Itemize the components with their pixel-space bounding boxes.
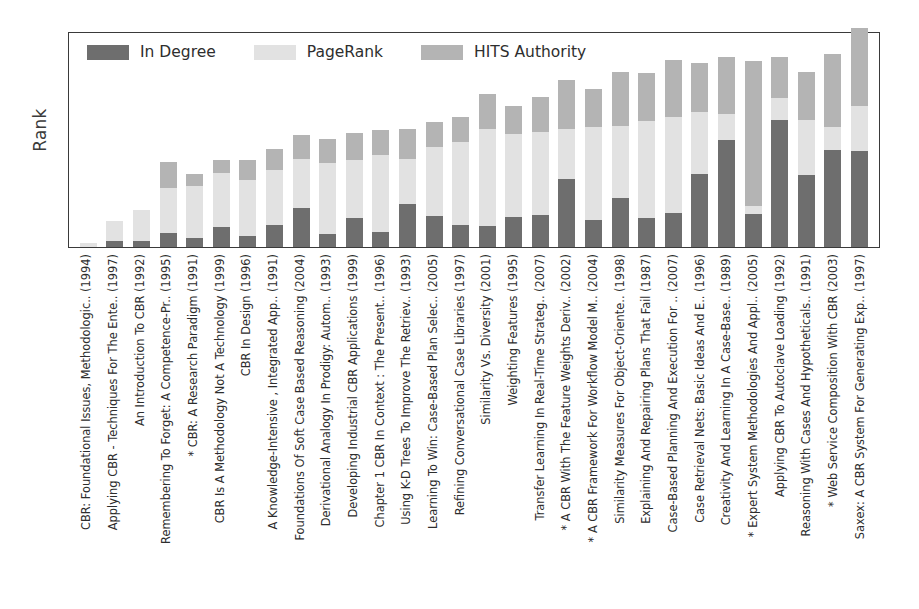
bar-segment [319, 139, 336, 163]
bar-segment [638, 121, 655, 218]
bar-segment [239, 160, 256, 180]
stacked-bar [745, 61, 762, 247]
bar-segment [745, 61, 762, 206]
stacked-bar [718, 57, 735, 247]
bar-segment [186, 174, 203, 186]
bar-segment [213, 227, 230, 247]
bar-column [793, 33, 820, 247]
bar-segment [160, 162, 177, 188]
bar-segment [479, 129, 496, 226]
bar-segment [718, 57, 735, 114]
bar-segment [665, 60, 682, 117]
bar-column [314, 33, 341, 247]
stacked-bar [399, 129, 416, 247]
x-tick-label: Reasoning With Cases And Hypotheticals..… [802, 254, 813, 536]
bar-segment [585, 89, 602, 127]
x-tick-label: * A CBR With The Feature Weights Deriv..… [562, 254, 573, 530]
x-tick-cell: Foundations Of Soft Case Based Reasoning… [287, 250, 314, 602]
x-tick-label: Saxex: A CBR System For Generating Exp..… [855, 254, 866, 539]
bar-column [394, 33, 421, 247]
stacked-bar [665, 60, 682, 247]
x-tick-cell: Explaining And Repairing Plans That Fail… [634, 250, 661, 602]
x-tick-cell: Learning To Win: Case-Based Plan Selec..… [421, 250, 448, 602]
stacked-bar [133, 210, 150, 247]
plot-area: In DegreePageRankHITS Authority [68, 32, 880, 248]
bar-segment [612, 72, 629, 126]
stacked-bar [346, 133, 363, 247]
stacked-bar [213, 160, 230, 247]
stacked-bar [505, 106, 522, 247]
x-tick-cell: Case Retrieval Nets: Basic Ideas And E..… [687, 250, 714, 602]
x-tick-cell: * CBR: A Research Paradigm (1991) [181, 250, 208, 602]
bar-column [421, 33, 448, 247]
bar-column [607, 33, 634, 247]
x-tick-label: * Expert System Methodologies And Appl..… [748, 254, 759, 537]
bar-segment [133, 210, 150, 241]
bar-segment [585, 220, 602, 247]
bar-segment [771, 98, 788, 120]
stacked-bar [824, 54, 841, 247]
legend-swatch [87, 45, 129, 60]
legend-item: HITS Authority [421, 43, 624, 61]
x-tick-cell: * Web Service Composition With CBR (2003… [821, 250, 848, 602]
bar-segment [399, 129, 416, 159]
chart-root: Rank In DegreePageRankHITS Authority CBR… [0, 0, 919, 609]
x-tick-cell: Refining Conversational Case Libraries (… [447, 250, 474, 602]
x-tick-label: CBR Is A Methodology Not A Technology (1… [215, 254, 226, 523]
bar-column [820, 33, 847, 247]
bar-column [128, 33, 155, 247]
bar-segment [505, 134, 522, 217]
x-tick-cell: An Introduction To CBR (1992) [127, 250, 154, 602]
bars-container [69, 33, 879, 247]
bar-column [713, 33, 740, 247]
stacked-bar [479, 94, 496, 247]
bar-column [846, 33, 873, 247]
bar-segment [239, 236, 256, 247]
x-tick-cell: Saxex: A CBR System For Generating Exp..… [847, 250, 874, 602]
x-tick-label: Transfer Learning In Real-Time Strateg..… [535, 254, 546, 521]
bar-column [235, 33, 262, 247]
bar-segment [452, 117, 469, 142]
bar-segment [293, 208, 310, 247]
bar-column [102, 33, 129, 247]
stacked-bar [585, 89, 602, 247]
x-tick-label: * Web Service Composition With CBR (2003… [828, 254, 839, 507]
bar-column [740, 33, 767, 247]
x-tick-label: CBR: Foundational Issues, Methodologic..… [82, 254, 93, 530]
bar-segment [798, 120, 815, 175]
bar-segment [372, 232, 389, 247]
bar-segment [824, 54, 841, 127]
stacked-bar [612, 72, 629, 247]
stacked-bar [426, 122, 443, 247]
x-tick-label: Case-Based Planning And Execution For ..… [668, 254, 679, 532]
bar-segment [213, 160, 230, 173]
x-tick-label: Refining Conversational Case Libraries (… [455, 254, 466, 515]
x-tick-cell: * Expert System Methodologies And Appl..… [741, 250, 768, 602]
legend-item: PageRank [254, 43, 421, 61]
bar-segment [346, 133, 363, 160]
bar-column [474, 33, 501, 247]
x-tick-cell: Transfer Learning In Real-Time Strateg..… [527, 250, 554, 602]
bar-segment [426, 147, 443, 216]
bar-segment [346, 160, 363, 218]
bar-segment [612, 198, 629, 247]
bar-segment [133, 241, 150, 247]
x-tick-label: Chapter 1 CBR In Context : The Present..… [375, 254, 386, 528]
bar-column [288, 33, 315, 247]
bar-segment [851, 151, 868, 247]
bar-segment [160, 233, 177, 247]
legend-swatch [254, 45, 296, 60]
x-tick-cell: Similarity Measures For Object-Oriente..… [607, 250, 634, 602]
bar-segment [106, 241, 123, 247]
bar-column [501, 33, 528, 247]
x-tick-label: Remembering To Forget: A Competence-Pr..… [162, 254, 173, 544]
stacked-bar [160, 162, 177, 247]
bar-segment [372, 155, 389, 232]
bar-column [580, 33, 607, 247]
bar-column [181, 33, 208, 247]
x-tick-label: Learning To Win: Case-Based Plan Selec..… [428, 254, 439, 529]
x-tick-cell: Remembering To Forget: A Competence-Pr..… [154, 250, 181, 602]
bar-segment [824, 150, 841, 247]
stacked-bar [798, 72, 815, 247]
bar-segment [798, 175, 815, 247]
